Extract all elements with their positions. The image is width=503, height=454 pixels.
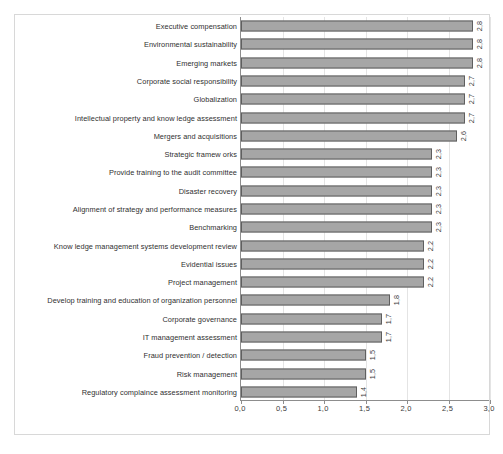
bar-rows: Executive compensation2,8Environmental s… <box>0 17 503 401</box>
bar-row: Mergers and acquisitions2,6 <box>0 127 503 145</box>
category-label: Provide training to the audit committee <box>109 168 237 177</box>
bar-value-label: 1,5 <box>367 350 376 361</box>
bar-value-label: 2,2 <box>425 277 434 288</box>
category-label: Project management <box>168 278 237 287</box>
category-label: Benchmarking <box>189 223 237 232</box>
bar-value-label: 2,8 <box>475 21 484 32</box>
bar <box>241 222 432 233</box>
category-label: Emerging markets <box>176 58 237 67</box>
x-tick-label: 0,5 <box>276 404 287 413</box>
category-label: Risk management <box>177 369 237 378</box>
category-label: Mergers and acquisitions <box>154 131 237 140</box>
bar-row: Alignment of strategy and performance me… <box>0 200 503 218</box>
bar <box>241 313 382 324</box>
bar-row: Risk management1,5 <box>0 364 503 382</box>
category-label: Globalization <box>194 95 237 104</box>
bar-value-label: 2,3 <box>433 222 442 233</box>
bar-row: Fraud prevention / detection1,5 <box>0 346 503 364</box>
bar <box>241 368 366 379</box>
bar-row: Provide training to the audit committee2… <box>0 163 503 181</box>
bar-value-label: 2,8 <box>475 39 484 50</box>
bar <box>241 295 390 306</box>
bar-row: Develop training and education of organi… <box>0 291 503 309</box>
category-label: Corporate governance <box>162 314 237 323</box>
bar-value-label: 2,3 <box>433 204 442 215</box>
bar-value-label: 1,5 <box>367 368 376 379</box>
bar-value-label: 2,8 <box>475 57 484 68</box>
bar <box>241 185 432 196</box>
category-label: Intellectual property and know ledge ass… <box>75 113 237 122</box>
category-label: Strategic framew orks <box>164 150 237 159</box>
bar-value-label: 2,3 <box>433 149 442 160</box>
category-label: Know ledge management systems developmen… <box>54 241 237 250</box>
category-label: Alignment of strategy and performance me… <box>73 204 237 213</box>
bar-value-label: 2,3 <box>433 167 442 178</box>
bar-row: Benchmarking2,3 <box>0 218 503 236</box>
bar-row: Emerging markets2,8 <box>0 54 503 72</box>
bar-value-label: 1,8 <box>392 295 401 306</box>
bar-value-label: 2,7 <box>467 94 476 105</box>
bar-value-label: 1,4 <box>359 387 368 398</box>
category-label: Develop training and education of organi… <box>47 296 237 305</box>
bar-row: Environmental sustainability2,8 <box>0 35 503 53</box>
category-label: Evidential issues <box>181 259 237 268</box>
bar-row: Intellectual property and know ledge ass… <box>0 108 503 126</box>
category-label: IT management assessment <box>143 332 237 341</box>
bar-row: Project management2,2 <box>0 273 503 291</box>
bar-chart-figure: 0,00,51,01,52,02,53,0 Executive compensa… <box>0 0 503 454</box>
x-tick-label: 2,5 <box>442 404 453 413</box>
bar-row: Disaster recovery2,3 <box>0 182 503 200</box>
bar <box>241 386 357 397</box>
bar-value-label: 2,3 <box>433 185 442 196</box>
bar-value-label: 2,2 <box>425 259 434 270</box>
category-label: Executive compensation <box>156 22 237 31</box>
bar <box>241 149 432 160</box>
bar <box>241 203 432 214</box>
bar <box>241 258 424 269</box>
bar-row: Evidential issues2,2 <box>0 255 503 273</box>
bar-value-label: 2,6 <box>458 131 467 142</box>
bar-row: Strategic framew orks2,3 <box>0 145 503 163</box>
bar-value-label: 1,7 <box>384 313 393 324</box>
bar <box>241 21 473 32</box>
bar <box>241 240 424 251</box>
category-label: Corporate social responsibility <box>137 76 237 85</box>
category-label: Regulatory complaince assessment monitor… <box>82 387 237 396</box>
category-label: Fraud prevention / detection <box>144 351 237 360</box>
x-tick-label: 1,5 <box>359 404 370 413</box>
bar <box>241 75 465 86</box>
x-tick-label: 0,0 <box>234 404 245 413</box>
bar <box>241 167 432 178</box>
x-tick-label: 3,0 <box>483 404 494 413</box>
bar <box>241 277 424 288</box>
bar-row: Corporate governance1,7 <box>0 310 503 328</box>
bar <box>241 57 473 68</box>
bar <box>241 39 473 50</box>
bar <box>241 130 457 141</box>
x-tick-label: 1,0 <box>317 404 328 413</box>
bar-value-label: 1,7 <box>384 332 393 343</box>
category-label: Environmental sustainability <box>144 40 237 49</box>
bar <box>241 112 465 123</box>
bar-row: Know ledge management systems developmen… <box>0 236 503 254</box>
bar-row: IT management assessment1,7 <box>0 328 503 346</box>
bar-value-label: 2,7 <box>467 76 476 87</box>
bar-value-label: 2,7 <box>467 112 476 123</box>
bar-row: Globalization2,7 <box>0 90 503 108</box>
bar <box>241 350 366 361</box>
bar <box>241 331 382 342</box>
bar <box>241 94 465 105</box>
x-tick-label: 2,0 <box>400 404 411 413</box>
bar-row: Corporate social responsibility2,7 <box>0 72 503 90</box>
category-label: Disaster recovery <box>179 186 237 195</box>
bar-row: Executive compensation2,8 <box>0 17 503 35</box>
bar-row: Regulatory complaince assessment monitor… <box>0 383 503 401</box>
bar-value-label: 2,2 <box>425 240 434 251</box>
